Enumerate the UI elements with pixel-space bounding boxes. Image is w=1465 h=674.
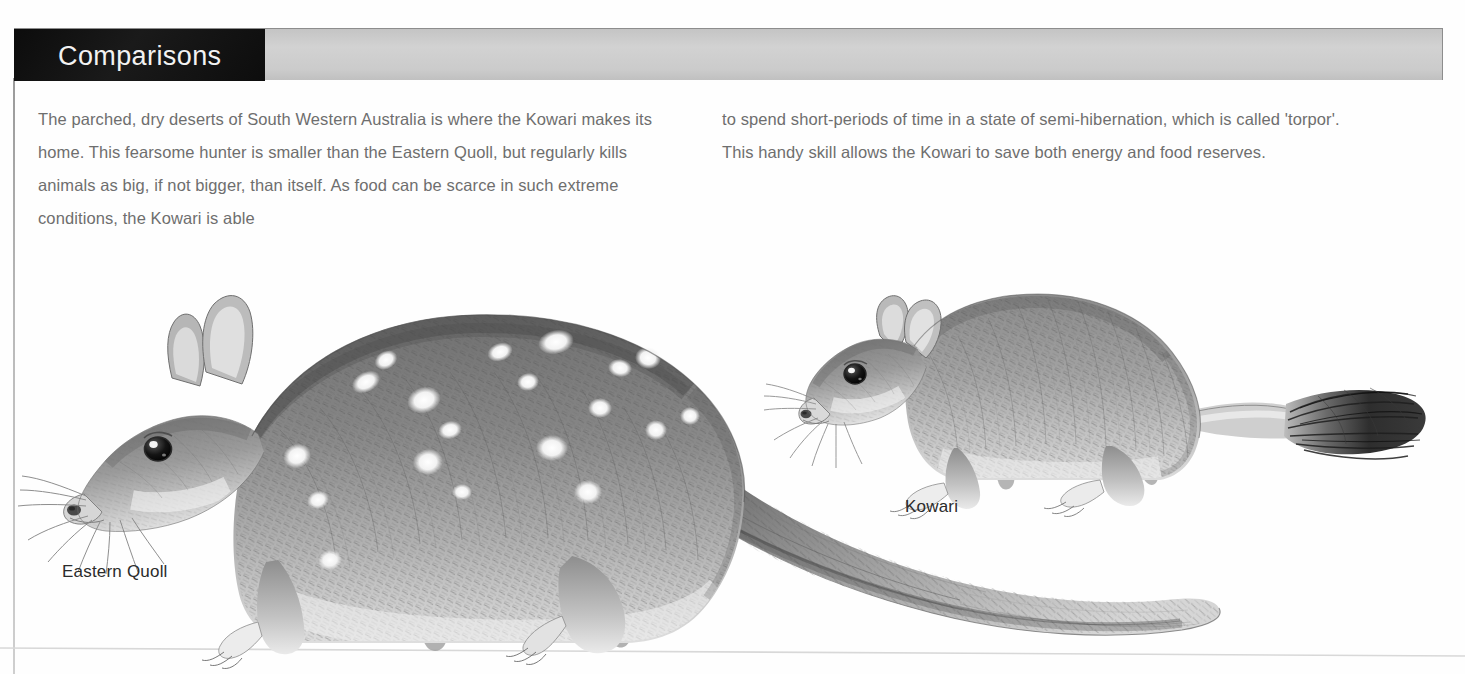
quoll-body (230, 300, 760, 660)
scanned-page: Comparisons The parched, dry deserts of … (0, 0, 1465, 674)
comparison-illustration (0, 0, 1465, 674)
caption-eastern-quoll: Eastern Quoll (62, 562, 168, 582)
caption-kowari: Kowari (905, 497, 958, 517)
kowari-body (890, 280, 1230, 500)
kowari-illustration (764, 280, 1426, 519)
kowari-tail-brush (1284, 388, 1426, 459)
kowari-tail (1185, 388, 1426, 459)
